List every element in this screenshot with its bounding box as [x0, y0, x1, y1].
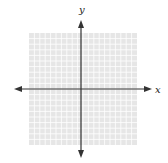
x-axis-left-arrow-icon [14, 86, 22, 92]
y-axis-label: y [78, 4, 85, 15]
y-axis-down-arrow-icon [78, 150, 84, 158]
y-axis-up-arrow-icon [78, 20, 84, 28]
coordinate-plane: y x [0, 0, 168, 163]
x-axis-label: x [155, 84, 161, 95]
x-axis-right-arrow-icon [144, 86, 152, 92]
